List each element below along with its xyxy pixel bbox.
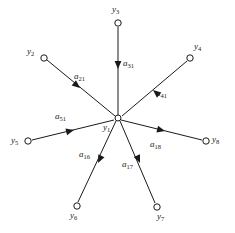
node-label-y8: y8 [212,135,219,144]
node-y7 [154,204,160,210]
arrowhead-a18 [156,126,165,135]
node-y1 [115,115,121,121]
node-y4 [187,55,193,61]
nodes-layer [25,20,209,210]
edge-label-a18: a18 [150,140,161,149]
edge-label-a16: a16 [79,150,90,159]
signal-flow-graph-figure: a21a31a41a51a16a17a18y1y2y3y4y5y6y7y8 [0,0,235,233]
arrowhead-a51 [65,127,74,136]
arrowhead-a31 [115,61,122,69]
edge-a21 [47,60,115,116]
node-y2 [41,55,47,61]
edge-label-a17: a17 [122,160,133,169]
node-label-y3: y3 [112,5,119,14]
node-y6 [74,203,80,209]
graph-canvas [0,0,235,233]
node-y8 [203,138,209,144]
node-label-y2: y2 [27,47,34,56]
node-label-y1: y1 [103,123,110,132]
edge-a41 [122,61,187,116]
edge-label-a21: a21 [74,72,85,81]
edge-label-a51: a51 [55,112,66,121]
node-y5 [25,138,31,144]
node-label-y4: y4 [194,42,201,51]
edge-label-a31: a31 [123,59,134,68]
node-label-y5: y5 [11,136,18,145]
node-label-y6: y6 [70,211,77,220]
edge-label-a41: a41 [156,89,167,98]
node-y3 [115,20,121,26]
node-label-y7: y7 [157,212,164,221]
edge-a16 [78,121,116,202]
